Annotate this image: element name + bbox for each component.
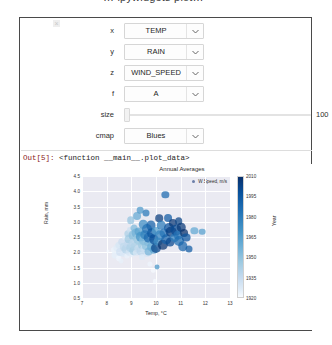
- y-tick-label: 4.0: [62, 189, 80, 194]
- colorbar-tick-label: 1965: [246, 235, 256, 240]
- chevron-down-icon[interactable]: [186, 129, 203, 143]
- widget-row-f: f A: [20, 84, 312, 104]
- scatter-point: [191, 227, 198, 234]
- x-tick-label: 10: [148, 301, 164, 306]
- x-tick-label: 11: [173, 301, 189, 306]
- gridline-vertical: [230, 176, 231, 298]
- y-tick-label: 0.5: [62, 296, 80, 301]
- screenshot-root: … ipywidgets plot… × x TEMP y RAIN: [0, 0, 332, 345]
- scatter-point: [182, 233, 191, 242]
- legend-label: W Speed, m/s: [198, 179, 227, 184]
- output-text: <function __main__.plot_data>: [59, 154, 190, 162]
- colorbar-tick-label: 1980: [246, 214, 256, 219]
- gridline-horizontal: [82, 207, 230, 208]
- output-prompt-line: Out[5]: <function __main__.plot_data>: [21, 150, 312, 164]
- dropdown-f-value: A: [125, 87, 187, 101]
- y-tick-label: 2.5: [62, 235, 80, 240]
- size-slider-value: 100: [316, 105, 329, 125]
- dropdown-y[interactable]: RAIN: [124, 44, 204, 60]
- widget-label-size: size: [20, 105, 119, 125]
- y-tick-label: 4.5: [62, 174, 80, 179]
- scatter-point: [155, 264, 160, 269]
- chart-legend: W Speed, m/s: [192, 179, 227, 184]
- chart-title: Annual Averages: [117, 166, 247, 172]
- size-slider-handle[interactable]: [124, 108, 130, 122]
- y-tick-label: 2.0: [62, 250, 80, 255]
- colorbar-tick-label: 1920: [246, 296, 256, 301]
- y-tick-label: 1.0: [62, 280, 80, 285]
- widget-label-cmap: cmap: [20, 126, 119, 146]
- gridline-horizontal: [82, 283, 230, 284]
- cut-off-heading-text: … ipywidgets plot…: [103, 0, 204, 3]
- dropdown-cmap-value: Blues: [125, 129, 187, 143]
- widget-row-x: x TEMP: [20, 21, 312, 41]
- cut-off-heading-strip: … ipywidgets plot…: [0, 0, 332, 13]
- notebook-cell-panel: × x TEMP y RAIN: [19, 17, 312, 331]
- widget-row-z: z WIND_SPEED: [20, 63, 312, 83]
- colorbar-tick-label: 2010: [246, 174, 256, 179]
- x-tick-label: 9: [123, 301, 139, 306]
- scatter-point: [199, 228, 206, 235]
- scatter-point: [186, 246, 193, 253]
- widget-label-y: y: [20, 42, 119, 62]
- gridline-horizontal: [82, 298, 230, 299]
- size-slider-track[interactable]: [126, 114, 311, 116]
- scatter-point: [147, 261, 152, 266]
- widget-row-cmap: cmap Blues: [20, 126, 312, 146]
- scatter-point: [151, 268, 156, 273]
- chevron-down-icon[interactable]: [186, 45, 203, 59]
- chevron-down-icon[interactable]: [186, 24, 203, 38]
- gridline-horizontal: [82, 176, 230, 177]
- chevron-down-icon[interactable]: [186, 87, 203, 101]
- gridline-horizontal: [82, 222, 230, 223]
- widget-label-f: f: [20, 84, 119, 104]
- gridline-horizontal: [82, 191, 230, 192]
- y-tick-label: 3.5: [62, 204, 80, 209]
- colorbar-tick-label: 1935: [246, 275, 256, 280]
- dropdown-z-value: WIND_SPEED: [125, 66, 187, 80]
- ipywidgets-container: × x TEMP y RAIN: [20, 18, 312, 147]
- widget-label-z: z: [20, 63, 119, 83]
- widget-label-x: x: [20, 21, 119, 41]
- output-prompt-label: Out[5]:: [23, 154, 55, 162]
- x-tick-label: 7: [74, 301, 90, 306]
- y-axis-label: Rain, mm: [43, 202, 49, 224]
- y-axis-ticks: 0.51.01.52.02.53.03.54.04.5: [60, 176, 80, 298]
- colorbar: [237, 176, 244, 298]
- dropdown-z[interactable]: WIND_SPEED: [124, 65, 204, 81]
- scatter-point: [143, 209, 150, 216]
- colorbar-ticks: 2010199519801965195019351920: [246, 176, 270, 298]
- widget-row-y: y RAIN: [20, 42, 312, 62]
- x-tick-label: 12: [197, 301, 213, 306]
- colorbar-tick-label: 1995: [246, 194, 256, 199]
- dropdown-y-value: RAIN: [125, 45, 187, 59]
- dropdown-cmap[interactable]: Blues: [124, 128, 204, 144]
- scatter-point: [162, 191, 169, 198]
- colorbar-tick-label: 1950: [246, 255, 256, 260]
- legend-marker-icon: [192, 180, 195, 183]
- dropdown-x[interactable]: TEMP: [124, 23, 204, 39]
- x-axis-ticks: 78910111213: [82, 301, 230, 309]
- matplotlib-figure: Annual Averages W Speed, m/s 0.51.01.52.…: [21, 164, 312, 330]
- widget-row-size: size 100: [20, 105, 312, 125]
- dropdown-x-value: TEMP: [125, 24, 187, 38]
- chevron-down-icon[interactable]: [186, 66, 203, 80]
- x-tick-label: 13: [222, 301, 238, 306]
- x-axis-label: Temp, °C: [82, 310, 230, 316]
- colorbar-label: Year: [271, 216, 277, 226]
- y-tick-label: 1.5: [62, 265, 80, 270]
- dropdown-f[interactable]: A: [124, 86, 204, 102]
- x-tick-label: 8: [99, 301, 115, 306]
- scatter-point: [119, 258, 124, 263]
- y-tick-label: 3.0: [62, 219, 80, 224]
- scatter-plot-axes: W Speed, m/s: [82, 176, 230, 298]
